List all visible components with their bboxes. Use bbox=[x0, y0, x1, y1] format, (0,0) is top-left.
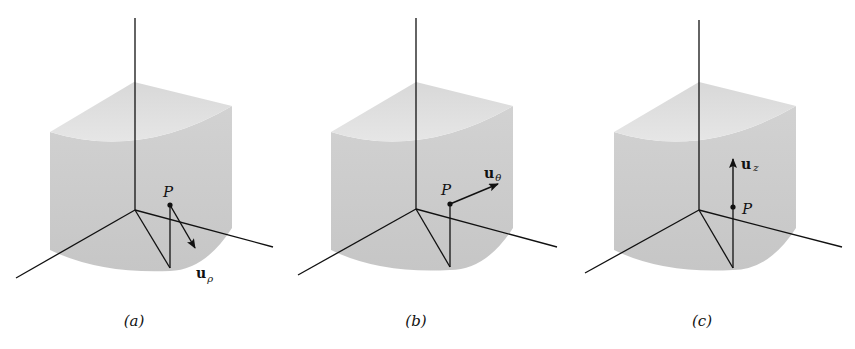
u-rho-subscript: ρ bbox=[206, 273, 213, 284]
u-z-base: u bbox=[741, 156, 751, 172]
panel-c: P uz (c) bbox=[585, 20, 842, 330]
panel-a: P uρ (a) bbox=[16, 18, 273, 330]
u-z-subscript: z bbox=[752, 162, 759, 173]
point-p-label: P bbox=[741, 200, 753, 218]
u-theta-subscript: θ bbox=[495, 172, 501, 183]
caption-c: (c) bbox=[692, 312, 712, 330]
u-rho-base: u bbox=[196, 265, 206, 281]
u-theta-base: u bbox=[484, 165, 494, 181]
cylindrical-unit-vectors-figure: P uρ (a) P uθ (b) bbox=[0, 0, 855, 349]
point-p-dot bbox=[447, 201, 452, 206]
caption-b: (b) bbox=[405, 312, 426, 330]
panel-b: P uθ (b) bbox=[298, 18, 557, 330]
point-p-dot bbox=[730, 204, 735, 209]
caption-a: (a) bbox=[124, 312, 145, 330]
point-p-dot bbox=[167, 202, 172, 207]
point-p-label: P bbox=[162, 183, 174, 201]
u-rho-label: uρ bbox=[196, 265, 213, 284]
point-p-label: P bbox=[440, 181, 452, 199]
